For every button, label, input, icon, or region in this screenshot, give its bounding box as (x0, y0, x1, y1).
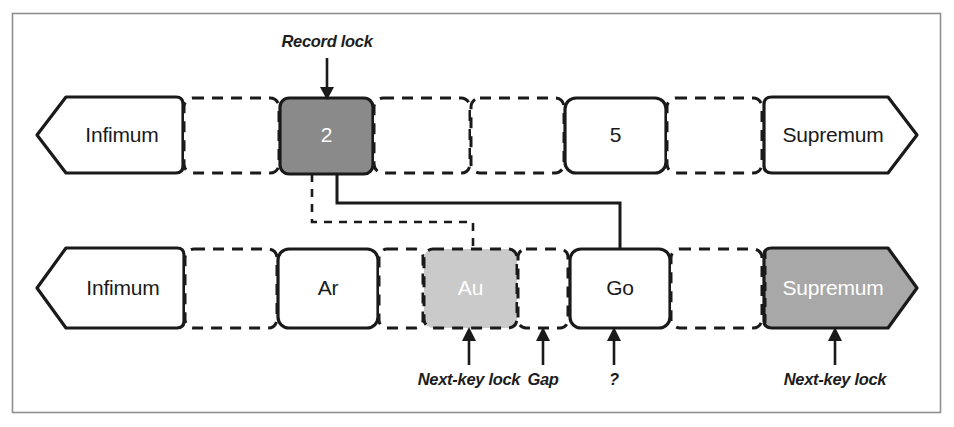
top-gap-3-shape (471, 98, 564, 173)
bot-gap-2-shape (379, 249, 423, 328)
annot-next-key-lock-supremum-label: Next-key lock (784, 370, 887, 389)
lock-diagram-figure: Infimum 2 5 Supremum Infimum Ar Au Go Su… (0, 0, 954, 427)
bot-gap-3-shape (518, 249, 568, 328)
diagram-canvas (0, 0, 954, 427)
top-gap-1-shape (184, 98, 279, 173)
top-gap-2-shape (374, 98, 470, 173)
top-supremum-label: Supremum (764, 123, 902, 147)
bot-gap-4-shape (671, 249, 762, 328)
annot-record-lock-label: Record lock (281, 32, 372, 51)
bot-record-ar-label: Ar (278, 276, 378, 300)
annot-question-label: ? (609, 370, 619, 389)
top-infimum-label: Infimum (67, 123, 177, 147)
figure-frame (13, 14, 941, 413)
bot-gap-1-shape (185, 249, 277, 328)
bot-record-go-label: Go (570, 276, 670, 300)
bot-supremum-label: Supremum (764, 276, 902, 300)
top-record-5-label: 5 (565, 123, 666, 147)
bot-infimum-label: Infimum (67, 276, 179, 300)
top-record-2-label: 2 (280, 123, 373, 147)
annot-gap-label: Gap (527, 370, 558, 389)
bot-record-au-label: Au (424, 276, 517, 300)
annot-next-key-lock-au-label: Next-key lock (418, 370, 521, 389)
top-gap-4-shape (667, 98, 762, 173)
